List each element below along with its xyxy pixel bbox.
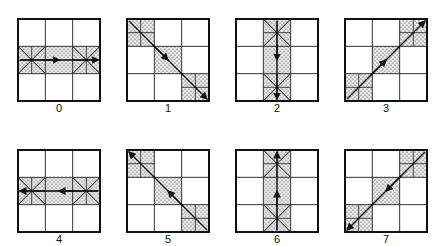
panel-3: 3	[344, 18, 428, 118]
panel-label: 1	[126, 102, 210, 114]
panel-6: 6	[235, 149, 319, 246]
grid-diagram	[17, 18, 101, 102]
grid-diagram	[235, 149, 319, 233]
panel-1: 1	[126, 18, 210, 118]
panel-4: 4	[17, 149, 101, 246]
grid-diagram	[344, 149, 428, 233]
panel-label: 3	[344, 102, 428, 114]
grid-diagram	[17, 149, 101, 233]
panel-7: 7	[344, 149, 428, 246]
grid-diagram	[235, 18, 319, 102]
grid-diagram	[344, 18, 428, 102]
grid-diagram	[126, 18, 210, 102]
panel-label: 6	[235, 233, 319, 245]
panel-5: 5	[126, 149, 210, 246]
panel-label: 4	[17, 233, 101, 245]
panel-label: 0	[17, 102, 101, 114]
panel-label: 5	[126, 233, 210, 245]
panel-2: 2	[235, 18, 319, 118]
grid-diagram	[126, 149, 210, 233]
panel-0: 0	[17, 18, 101, 118]
panel-label: 7	[344, 233, 428, 245]
panel-label: 2	[235, 102, 319, 114]
